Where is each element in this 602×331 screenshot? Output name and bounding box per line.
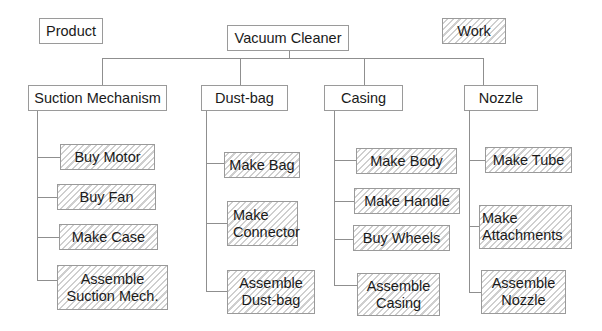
- root-label: Vacuum Cleaner: [235, 30, 342, 47]
- branch: [334, 160, 356, 161]
- root-node: Vacuum Cleaner: [227, 25, 349, 51]
- task-label: Buy Fan: [80, 189, 134, 206]
- branch: [37, 237, 59, 238]
- task-buy-motor: Buy Motor: [60, 144, 155, 170]
- branch: [469, 292, 481, 293]
- component-label: Nozzle: [479, 90, 523, 107]
- task-make-connector: Make Connector: [227, 201, 298, 246]
- casing-spine: [334, 111, 335, 286]
- connector-nozzle: [483, 58, 484, 85]
- task-label: Make Handle: [364, 193, 449, 210]
- task-label: Assemble Nozzle: [492, 275, 556, 309]
- task-assemble-nozzle: Assemble Nozzle: [481, 270, 566, 314]
- task-label: Make Attachments: [482, 210, 563, 244]
- branch: [469, 226, 479, 227]
- task-make-handle: Make Handle: [354, 188, 460, 214]
- task-label: Buy Wheels: [363, 230, 440, 247]
- component-casing: Casing: [324, 85, 403, 111]
- task-make-body: Make Body: [356, 148, 457, 174]
- task-label: Make Bag: [229, 157, 294, 174]
- task-buy-fan: Buy Fan: [57, 184, 156, 210]
- task-make-attachments: Make Attachments: [479, 205, 572, 249]
- task-label: Make Body: [370, 153, 443, 170]
- level1-bus: [102, 58, 484, 59]
- task-label: Make Case: [72, 229, 145, 246]
- branch: [334, 239, 353, 240]
- task-assemble-suction-mech: Assemble Suction Mech.: [57, 265, 168, 310]
- branch: [334, 201, 354, 202]
- component-label: Suction Mechanism: [34, 90, 161, 107]
- component-label: Dust-bag: [215, 90, 274, 107]
- component-label: Casing: [341, 90, 386, 107]
- task-label: Assemble Casing: [367, 278, 431, 312]
- component-nozzle: Nozzle: [464, 85, 538, 111]
- task-label: Assemble Suction Mech.: [67, 271, 159, 305]
- task-assemble-casing: Assemble Casing: [357, 273, 440, 316]
- task-label: Make Tube: [493, 152, 565, 169]
- task-label: Assemble Dust-bag: [239, 275, 303, 309]
- component-suction-mechanism: Suction Mechanism: [28, 85, 167, 111]
- branch: [334, 285, 357, 286]
- branch: [469, 160, 485, 161]
- task-make-case: Make Case: [59, 224, 158, 250]
- task-make-tube: Make Tube: [485, 147, 572, 173]
- task-label: Buy Motor: [74, 149, 140, 166]
- task-make-bag: Make Bag: [224, 152, 300, 178]
- connector-casing: [364, 58, 365, 85]
- nozzle-spine: [469, 110, 470, 293]
- legend-work-label: Work: [457, 23, 491, 40]
- branch: [206, 291, 227, 292]
- suction-spine: [37, 111, 38, 281]
- connector-dustbag: [240, 58, 241, 85]
- branch: [37, 157, 60, 158]
- connector-suction: [102, 58, 103, 85]
- branch: [37, 280, 57, 281]
- branch: [206, 163, 224, 164]
- dustbag-spine: [206, 111, 207, 292]
- branch: [37, 197, 57, 198]
- component-dust-bag: Dust-bag: [201, 85, 288, 111]
- task-buy-wheels: Buy Wheels: [353, 225, 450, 251]
- legend-product: Product: [39, 18, 103, 44]
- task-label: Make Connector: [233, 207, 300, 241]
- legend-product-label: Product: [46, 23, 96, 40]
- branch: [206, 223, 227, 224]
- task-assemble-dust-bag: Assemble Dust-bag: [227, 270, 315, 314]
- legend-work: Work: [442, 18, 506, 44]
